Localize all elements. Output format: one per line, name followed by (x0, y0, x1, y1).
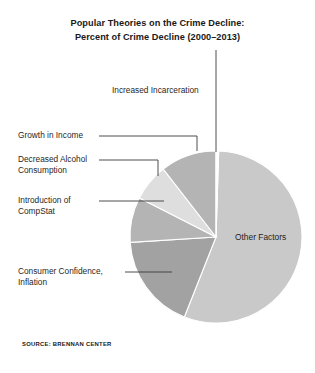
slice-label-decreased-alcohol: Decreased Alcohol Consumption (18, 154, 87, 176)
slice-label-other-factors: Other Factors (235, 232, 286, 243)
slice-label-increased-incarceration: Increased Incarceration (112, 85, 199, 96)
slice-label-compstat: Introduction of CompStat (18, 195, 71, 217)
chart-figure: Popular Theories on the Crime Decline: P… (0, 0, 315, 373)
slice-label-growth-in-income: Growth in Income (18, 130, 83, 141)
slice-label-consumer-confidence: Consumer Confidence, Inflation (18, 266, 103, 288)
source-note: SOURCE: BRENNAN CENTER (22, 341, 112, 347)
pie-chart-graphic (0, 0, 315, 373)
leader-line-decreased-alcohol (99, 160, 158, 176)
leader-line-growth-in-income (99, 136, 197, 151)
